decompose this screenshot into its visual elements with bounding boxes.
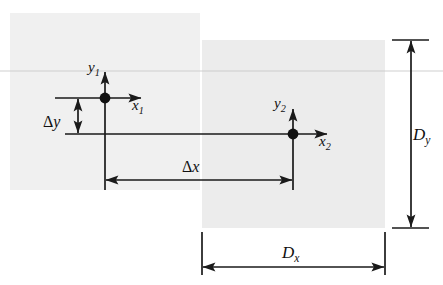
dimension-d-y: Dy bbox=[392, 40, 431, 228]
origin-dot-2 bbox=[288, 129, 299, 140]
d-y-label: Dy bbox=[412, 125, 431, 147]
origin-dot-1 bbox=[100, 93, 111, 104]
image-frames-group bbox=[10, 13, 385, 228]
delta-y-label: Δy bbox=[43, 113, 61, 131]
figure-container: y1 x1 y2 x2 Δy Δx bbox=[0, 0, 443, 285]
d-x-label: Dx bbox=[281, 243, 300, 265]
dimension-d-x: Dx bbox=[202, 232, 385, 275]
delta-x-label: Δx bbox=[182, 158, 199, 175]
displacement-diagram: y1 x1 y2 x2 Δy Δx bbox=[0, 0, 443, 285]
